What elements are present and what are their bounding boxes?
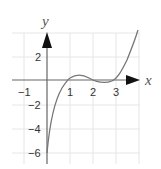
tick-y-neg6: −6 (28, 147, 41, 159)
x-axis-arrow-icon (126, 75, 140, 85)
tick-x-1: 1 (67, 86, 73, 98)
tick-y-neg2: −2 (28, 99, 41, 111)
tick-x-3: 3 (113, 86, 119, 98)
tick-x-neg1: −1 (18, 86, 31, 98)
y-axis-arrow-icon (42, 32, 52, 48)
tick-y-neg4: −4 (28, 123, 41, 135)
x-axis-label: x (144, 72, 152, 88)
tick-x-2: 2 (90, 86, 96, 98)
y-axis-label: y (40, 13, 49, 29)
cubic-graph: x y −1 1 2 3 2 −2 −4 −6 (0, 0, 161, 169)
tick-y-2: 2 (35, 51, 41, 63)
